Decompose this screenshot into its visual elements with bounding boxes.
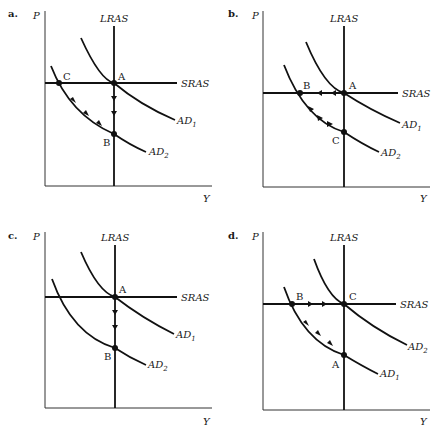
panel-label: d. bbox=[228, 230, 238, 241]
arrow-right-icon bbox=[322, 301, 327, 307]
panel-a: a. P Y LRAS SRAS AD1 AD2 A C B bbox=[8, 8, 212, 204]
ad1-label: AD1 bbox=[401, 119, 422, 133]
axes bbox=[263, 11, 430, 187]
ad1-label: AD1 bbox=[175, 329, 196, 343]
point-b bbox=[111, 131, 117, 137]
lras-label: LRAS bbox=[99, 13, 128, 24]
axes bbox=[263, 232, 430, 410]
axes bbox=[45, 232, 212, 408]
y-axis-label: P bbox=[251, 231, 259, 242]
point-c-label: C bbox=[63, 71, 71, 82]
point-a bbox=[111, 80, 117, 86]
y-axis-label: P bbox=[32, 231, 40, 242]
ad2-label: AD2 bbox=[407, 341, 428, 355]
point-b-label: B bbox=[296, 291, 303, 302]
sras-label: SRAS bbox=[181, 292, 210, 303]
ad1-label: AD1 bbox=[379, 368, 400, 382]
panel-label: a. bbox=[8, 8, 18, 19]
point-b-label: B bbox=[103, 137, 110, 148]
arrow-left-icon bbox=[331, 90, 336, 96]
point-a bbox=[112, 294, 118, 300]
panel-label: b. bbox=[228, 8, 238, 19]
point-b bbox=[289, 301, 295, 307]
point-a bbox=[341, 90, 347, 96]
panel-c: c. P Y LRAS SRAS AD1 AD2 A B bbox=[8, 230, 212, 427]
ad2-curve bbox=[52, 279, 146, 365]
axes bbox=[45, 11, 212, 186]
y-axis-label: P bbox=[251, 10, 259, 21]
point-a-label: A bbox=[117, 71, 126, 82]
x-axis-label: Y bbox=[203, 193, 211, 204]
ad-as-diagram: a. P Y LRAS SRAS AD1 AD2 A C B b. P Y LR… bbox=[0, 0, 448, 441]
arrow-right-icon bbox=[308, 301, 313, 307]
arrow-down-icon bbox=[111, 96, 117, 101]
lras-label: LRAS bbox=[329, 13, 358, 24]
sras-label: SRAS bbox=[402, 88, 431, 99]
point-a-label: A bbox=[348, 80, 357, 91]
arrow-down-icon bbox=[112, 310, 118, 315]
arrow-down-icon bbox=[111, 111, 117, 116]
arrow-up-left-icon bbox=[315, 330, 321, 336]
point-c-label: C bbox=[349, 291, 357, 302]
point-b-label: B bbox=[303, 80, 310, 91]
point-c-label: C bbox=[332, 135, 340, 146]
lras-label: LRAS bbox=[329, 232, 358, 243]
point-a bbox=[341, 352, 347, 358]
lras-label: LRAS bbox=[100, 232, 129, 243]
panel-b: b. P Y LRAS SRAS AD1 AD2 A B C bbox=[228, 8, 431, 204]
x-axis-label: Y bbox=[420, 416, 428, 427]
arrow-left-icon bbox=[317, 90, 322, 96]
ad2-label: AD2 bbox=[147, 359, 168, 373]
point-b-label: B bbox=[104, 351, 111, 362]
point-a-label: A bbox=[331, 359, 340, 370]
point-c bbox=[56, 80, 62, 86]
ad2-label: AD2 bbox=[380, 147, 401, 161]
ad2-label: AD2 bbox=[148, 146, 169, 160]
point-c bbox=[341, 129, 347, 135]
panel-label: c. bbox=[8, 230, 18, 241]
x-axis-label: Y bbox=[203, 416, 211, 427]
ad2-curve bbox=[314, 259, 407, 345]
ad1-label: AD1 bbox=[176, 115, 197, 129]
panel-d: d. P Y LRAS SRAS AD2 AD1 C B A bbox=[228, 230, 430, 427]
point-c bbox=[341, 301, 347, 307]
point-b bbox=[112, 345, 118, 351]
y-axis-label: P bbox=[32, 10, 40, 21]
ad1-curve bbox=[81, 252, 174, 334]
arrow-up-left-icon bbox=[327, 340, 333, 346]
sras-label: SRAS bbox=[181, 78, 210, 89]
arrow-down-icon bbox=[112, 325, 118, 330]
point-a-label: A bbox=[118, 284, 127, 295]
ad1-curve bbox=[81, 38, 175, 120]
x-axis-label: Y bbox=[420, 193, 428, 204]
sras-label: SRAS bbox=[400, 299, 429, 310]
